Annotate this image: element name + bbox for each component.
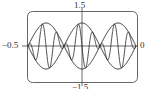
x-min-label: −0.5	[2, 41, 18, 50]
plot-area	[0, 0, 146, 89]
y-min-label: −1.5	[72, 83, 88, 89]
x-max-label: 0	[140, 41, 145, 50]
y-max-label: 1.5	[74, 1, 85, 10]
